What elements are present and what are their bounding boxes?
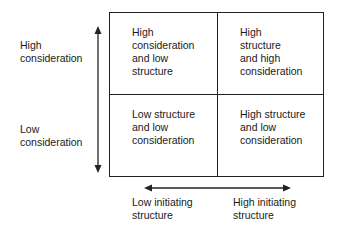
x-axis-high-label: High initiating structure — [233, 196, 296, 222]
y-axis-high-label: High consideration — [20, 39, 82, 65]
quadrant-top-left: High consideration and low structure — [132, 26, 194, 78]
x-axis-low-label: Low initiating structure — [132, 196, 193, 222]
vertical-double-arrow — [95, 26, 102, 173]
quadrant-grid: High consideration and low structure Hig… — [109, 12, 324, 177]
quadrant-top-right: High structure and high consideration — [240, 26, 302, 78]
grid-horizontal-divider — [110, 94, 323, 95]
quadrant-bottom-left: Low structure and low consideration — [132, 108, 195, 147]
quadrant-bottom-right: High structure and low consideration — [240, 108, 305, 147]
horizontal-double-arrow — [144, 185, 291, 192]
y-axis-low-label: Low consideration — [20, 123, 82, 149]
